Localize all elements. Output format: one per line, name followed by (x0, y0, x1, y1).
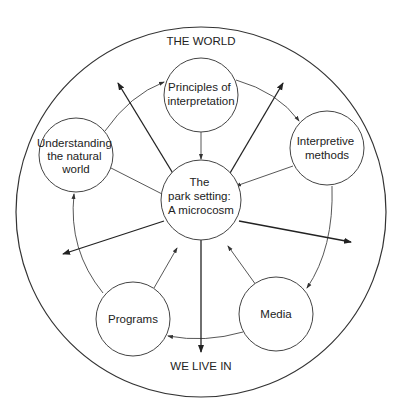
park-interpretation-diagram: THE WORLD WE LIVE IN Principles of inter… (0, 0, 400, 418)
node-methods-circle (290, 111, 364, 185)
world-label-bottom: WE LIVE IN (170, 360, 231, 372)
node-programs-label: Programs (108, 313, 158, 325)
world-label-top: THE WORLD (167, 35, 236, 47)
node-media-label: Media (260, 308, 292, 320)
